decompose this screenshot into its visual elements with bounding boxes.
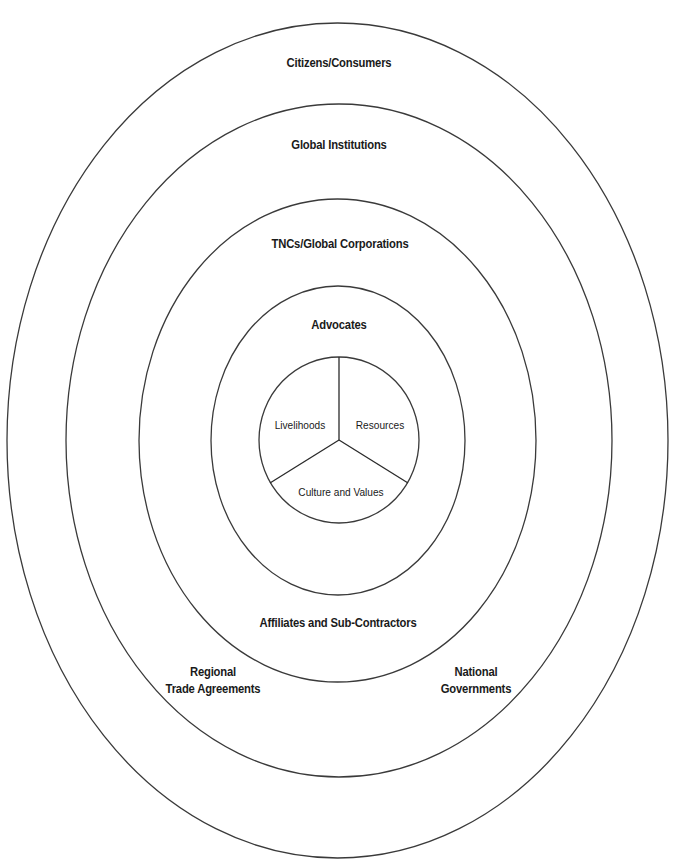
label-regional-line2: Trade Agreements [166, 680, 261, 699]
label-culture-and-values: Culture and Values [298, 483, 383, 502]
label-advocates: Advocates [311, 316, 366, 335]
label-resources: Resources [356, 416, 404, 435]
label-affiliates-sub-contractors: Affiliates and Sub-Contractors [259, 614, 416, 633]
core-divider-right [339, 440, 408, 483]
core-divider-left [270, 440, 339, 483]
label-national-line2: Governments [441, 680, 512, 699]
diagram-canvas [0, 0, 683, 867]
label-tncs-global-corporations: TNCs/Global Corporations [272, 235, 409, 254]
label-global-institutions: Global Institutions [291, 136, 386, 155]
label-citizens-consumers: Citizens/Consumers [287, 54, 392, 73]
label-livelihoods: Livelihoods [275, 416, 326, 435]
